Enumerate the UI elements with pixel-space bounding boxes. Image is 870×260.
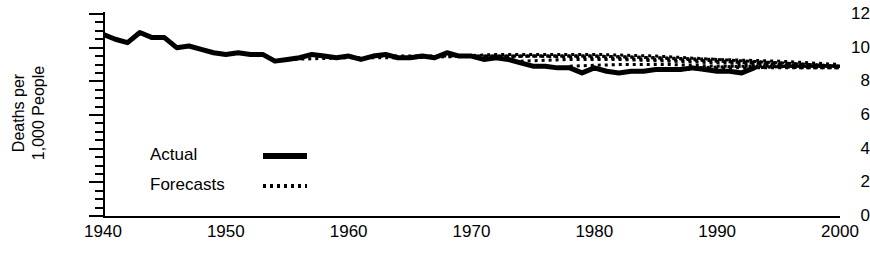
y-tick-major	[89, 80, 104, 82]
x-tick-label: 1970	[442, 222, 502, 242]
x-tick-label: 1980	[564, 222, 624, 242]
y-axis-title-line-1: Deaths per	[9, 74, 29, 152]
mortality-forecast-chart: Deaths per 1,000 People 024681012 194019…	[0, 0, 870, 260]
y-tick-major	[89, 114, 104, 116]
chart-legend: Actual Forecasts	[150, 140, 325, 200]
y-tick-major	[89, 13, 104, 15]
solid-line-swatch	[255, 145, 315, 165]
y-tick-major	[89, 215, 104, 217]
legend-item-forecasts: Forecasts	[150, 170, 325, 200]
y-tick-major	[89, 47, 104, 49]
y-tick-major	[89, 148, 104, 150]
y-axis-title: Deaths per 1,000 People	[6, 18, 52, 208]
x-tick-label: 2000	[810, 222, 870, 242]
x-tick-label: 1990	[687, 222, 747, 242]
y-tick-major	[89, 181, 104, 183]
x-tick-label: 1960	[319, 222, 379, 242]
legend-label-actual: Actual	[150, 145, 255, 165]
legend-label-forecasts: Forecasts	[150, 175, 255, 195]
x-tick-label: 1950	[196, 222, 256, 242]
x-tick-label: 1940	[73, 222, 133, 242]
y-axis-title-line-2: 1,000 People	[29, 66, 49, 160]
legend-item-actual: Actual	[150, 140, 325, 170]
actual-line	[103, 33, 754, 73]
dotted-line-swatch	[255, 175, 315, 195]
x-axis-line	[103, 216, 840, 218]
